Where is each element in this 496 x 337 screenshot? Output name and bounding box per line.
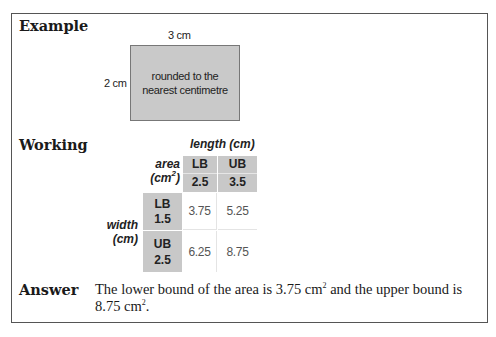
col-bound: UB: [218, 158, 257, 171]
row-bound: UB: [143, 236, 182, 252]
height-dimension-label: 2 cm: [104, 77, 127, 89]
table-cell-ub-ub: 8.75: [218, 231, 257, 272]
col-bound: LB: [183, 158, 217, 171]
table-corner-label: area (cm2): [138, 157, 180, 185]
row-header-lb: LB 1.5: [143, 193, 182, 230]
example-label: Example: [19, 17, 88, 34]
answer-label: Answer: [19, 281, 78, 298]
row-header-ub: UB 2.5: [143, 231, 182, 272]
answer-text: The lower bound of the area is 3.75 cm2 …: [95, 281, 480, 315]
row-axis-line2: (cm): [98, 232, 138, 246]
corner-line2: (cm2): [138, 171, 180, 185]
table-cell-ub-lb: 6.25: [183, 231, 217, 272]
row-value: 2.5: [143, 252, 182, 268]
working-label: Working: [19, 136, 88, 153]
col-value: 3.5: [218, 173, 257, 189]
row-value: 1.5: [143, 212, 182, 227]
col-value: 2.5: [183, 173, 217, 189]
table-cell-lb-lb: 3.75: [183, 193, 217, 230]
rectangle-diagram: rounded to the nearest centimetre: [130, 45, 240, 121]
column-header-ub: UB 3.5: [218, 156, 257, 192]
row-axis-label: width (cm): [98, 218, 138, 246]
rectangle-note-line1: rounded to the: [142, 69, 228, 83]
table-title: length (cm): [190, 137, 255, 151]
table-cell-lb-ub: 5.25: [218, 193, 257, 230]
row-bound: LB: [143, 197, 182, 212]
rectangle-note-line2: nearest centimetre: [142, 83, 228, 97]
row-axis-line1: width: [98, 218, 138, 232]
column-header-lb: LB 2.5: [183, 156, 217, 192]
width-dimension-label: 3 cm: [168, 29, 191, 41]
